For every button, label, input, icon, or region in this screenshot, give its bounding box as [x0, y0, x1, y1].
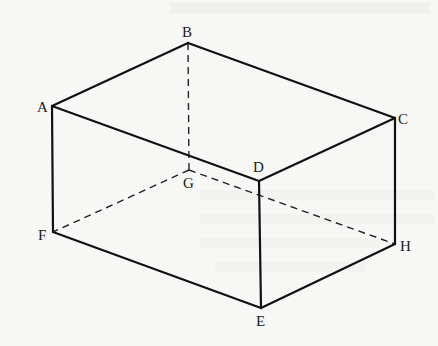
edge-DE — [259, 181, 261, 308]
label-E: E — [256, 313, 265, 329]
edge-AB — [52, 43, 188, 106]
edge-AF — [52, 106, 53, 232]
edge-BC — [188, 43, 395, 118]
label-D: D — [253, 159, 264, 175]
edge-EH — [261, 244, 395, 308]
edge-BG-hidden — [188, 43, 189, 170]
label-G: G — [183, 175, 194, 191]
hidden-edges — [53, 43, 395, 244]
diagram-svg: A B C D E F G H — [0, 0, 438, 346]
label-F: F — [38, 227, 46, 243]
edge-GF-hidden — [53, 170, 189, 232]
label-B: B — [182, 24, 192, 40]
label-A: A — [37, 99, 48, 115]
edge-GH-hidden — [189, 170, 395, 244]
vertex-labels: A B C D E F G H — [37, 24, 411, 329]
cuboid-diagram: A B C D E F G H — [0, 0, 438, 346]
edge-CD — [259, 118, 395, 181]
edge-DA — [52, 106, 259, 181]
label-H: H — [400, 238, 411, 254]
label-C: C — [398, 111, 408, 127]
